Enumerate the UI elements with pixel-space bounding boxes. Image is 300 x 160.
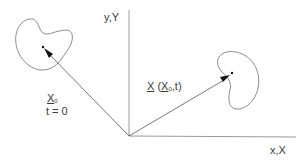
initial-time-label: t = 0 — [46, 106, 68, 117]
initial-position-vector — [48, 53, 129, 136]
initial-point-icon — [42, 46, 44, 48]
x-axis — [129, 136, 296, 137]
current-arrowhead-icon — [220, 75, 230, 82]
initial-vector-subscript: 0 — [54, 98, 57, 104]
initial-body-shape — [16, 19, 73, 70]
initial-vector-label: X0 — [47, 93, 58, 104]
y-axis-label: y,Y — [104, 12, 119, 23]
x-axis-label: x,X — [270, 145, 286, 156]
current-point-icon — [231, 72, 233, 74]
current-vector-label: X (X0,t) — [147, 81, 182, 92]
current-vector-arg-rest: ,t) — [172, 80, 182, 92]
